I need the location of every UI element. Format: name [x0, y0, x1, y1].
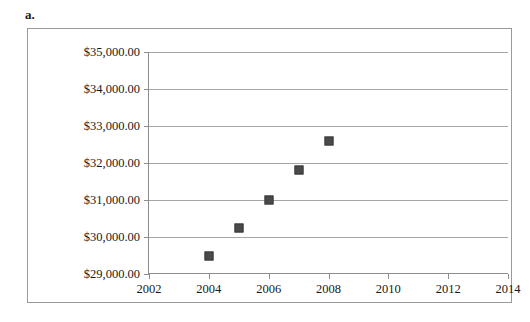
x-axis-tick-label: 2012: [436, 282, 461, 297]
y-axis-tick-label: $30,000.00: [84, 230, 140, 245]
y-axis-tick-label: $33,000.00: [84, 119, 140, 134]
y-gridline: [149, 126, 508, 127]
x-axis-tick-label: 2008: [316, 282, 341, 297]
x-axis-tick-label: 2004: [196, 282, 221, 297]
x-axis-tick-label: 2014: [496, 282, 521, 297]
y-axis-tick: [144, 89, 149, 90]
y-gridline: [149, 52, 508, 53]
y-axis-tick-label: $32,000.00: [84, 156, 140, 171]
y-axis-tick-label: $34,000.00: [84, 82, 140, 97]
y-axis-tick: [144, 126, 149, 127]
y-gridline: [149, 89, 508, 90]
x-axis-tick: [329, 274, 330, 279]
y-axis-tick: [144, 200, 149, 201]
y-axis-tick: [144, 163, 149, 164]
y-axis-tick: [144, 52, 149, 53]
chart-frame: $29,000.00$30,000.00$31,000.00$32,000.00…: [27, 28, 512, 303]
y-axis-tick-label: $35,000.00: [84, 45, 140, 60]
figure-label: a.: [25, 7, 35, 23]
y-gridline: [149, 200, 508, 201]
x-axis-tick-label: 2006: [256, 282, 281, 297]
data-point-marker: [204, 251, 213, 260]
y-axis-tick: [144, 237, 149, 238]
x-axis-tick: [388, 274, 389, 279]
x-axis-tick-label: 2010: [376, 282, 401, 297]
x-axis-tick: [508, 274, 509, 279]
data-point-marker: [324, 136, 333, 145]
y-gridline: [149, 163, 508, 164]
data-point-marker: [294, 166, 303, 175]
data-point-marker: [264, 196, 273, 205]
y-axis-tick-label: $31,000.00: [84, 193, 140, 208]
data-point-marker: [234, 223, 243, 232]
x-axis-tick-label: 2002: [137, 282, 162, 297]
y-axis-tick-label: $29,000.00: [84, 267, 140, 282]
x-axis-tick: [269, 274, 270, 279]
plot-area: $29,000.00$30,000.00$31,000.00$32,000.00…: [148, 52, 508, 274]
x-axis-tick: [209, 274, 210, 279]
x-axis-tick: [149, 274, 150, 279]
y-gridline: [149, 237, 508, 238]
x-axis-tick: [448, 274, 449, 279]
